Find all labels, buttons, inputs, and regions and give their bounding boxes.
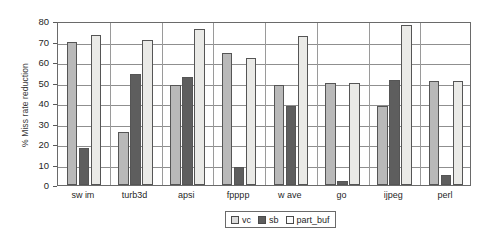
legend-item-vc: vc <box>231 215 251 225</box>
group-separator <box>420 23 421 185</box>
x-axis-tick-label: turb3d <box>109 190 161 200</box>
bar-sb-fpppp <box>234 167 245 185</box>
y-axis-tick-label: 50 <box>19 79 49 89</box>
bar-sb-perl <box>441 175 452 185</box>
group-separator <box>110 23 111 185</box>
bar-part_buf-turb3d <box>142 40 153 185</box>
bar-part_buf-wave <box>298 36 309 185</box>
legend-swatch-icon <box>258 216 266 224</box>
legend-label: sb <box>269 215 279 225</box>
y-axis-tick-label: 60 <box>19 58 49 68</box>
y-axis-tick-mark <box>53 104 57 105</box>
x-axis-tick-label: apsi <box>161 190 213 200</box>
x-axis-tick-label: sw im <box>57 190 109 200</box>
bar-vc-swim <box>67 42 78 186</box>
y-axis-tick-mark <box>53 125 57 126</box>
y-axis-tick-label: 0 <box>19 181 49 191</box>
group-separator <box>265 23 266 185</box>
chart-container: % Miss rate reduction 01020304050607080 … <box>0 0 487 243</box>
y-axis-tick-mark <box>53 145 57 146</box>
bar-vc-apsi <box>170 85 181 185</box>
bar-vc-go <box>325 83 336 186</box>
bar-sb-wave <box>286 106 297 185</box>
y-axis-tick-label: 20 <box>19 140 49 150</box>
y-axis-tick-mark <box>53 22 57 23</box>
bar-sb-go <box>337 181 348 185</box>
legend-item-part_buf: part_buf <box>286 215 330 225</box>
bar-part_buf-apsi <box>194 29 205 185</box>
y-axis-tick-label: 30 <box>19 120 49 130</box>
chart-legend: vcsbpart_buf <box>225 211 336 228</box>
x-axis-tick-label: perl <box>419 190 471 200</box>
y-axis-tick-mark <box>53 43 57 44</box>
bar-part_buf-fpppp <box>246 58 257 185</box>
legend-swatch-icon <box>286 216 294 224</box>
bar-sb-apsi <box>182 77 193 185</box>
y-axis-tick-mark <box>53 186 57 187</box>
y-axis-tick-label: 80 <box>19 17 49 27</box>
bar-part_buf-go <box>349 83 360 186</box>
group-separator <box>317 23 318 185</box>
x-axis-tick-label: w ave <box>264 190 316 200</box>
bar-vc-fpppp <box>222 53 233 185</box>
bar-vc-ijpeg <box>377 106 388 185</box>
legend-label: vc <box>242 215 251 225</box>
x-axis-tick-label: ijpeg <box>368 190 420 200</box>
bar-part_buf-perl <box>453 81 464 185</box>
bar-sb-turb3d <box>130 74 141 185</box>
bar-vc-wave <box>274 85 285 185</box>
bar-vc-perl <box>429 81 440 185</box>
y-axis-tick-mark <box>53 84 57 85</box>
y-axis-tick-label: 40 <box>19 99 49 109</box>
plot-area <box>57 22 471 186</box>
bar-sb-swim <box>79 148 90 185</box>
y-axis-tick-label: 10 <box>19 161 49 171</box>
bar-part_buf-ijpeg <box>401 25 412 185</box>
bar-vc-turb3d <box>118 132 129 185</box>
y-axis-tick-mark <box>53 166 57 167</box>
bar-sb-ijpeg <box>389 80 400 185</box>
x-axis-tick-label: fpppp <box>212 190 264 200</box>
group-separator <box>213 23 214 185</box>
y-axis-tick-mark <box>53 63 57 64</box>
legend-swatch-icon <box>231 216 239 224</box>
legend-label: part_buf <box>297 215 330 225</box>
legend-item-sb: sb <box>258 215 279 225</box>
bar-part_buf-swim <box>91 35 102 185</box>
x-axis-tick-label: go <box>316 190 368 200</box>
y-axis-tick-label: 70 <box>19 38 49 48</box>
group-separator <box>162 23 163 185</box>
group-separator <box>369 23 370 185</box>
